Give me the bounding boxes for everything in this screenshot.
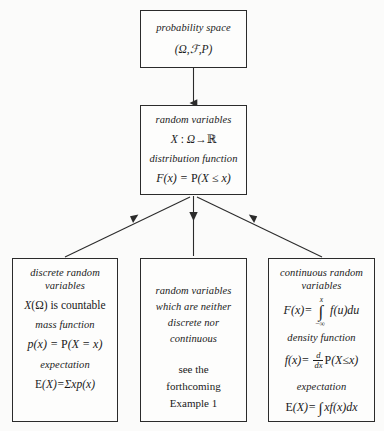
integral-upper-limit: x <box>320 297 323 303</box>
neither-line-4: continuous <box>141 333 246 345</box>
expectation-integral-icon: ∫ <box>318 400 322 416</box>
df-rhs: (X ≤ x) <box>198 171 231 185</box>
node-discrete-random-variables: discrete random variables X(Ω) is counta… <box>12 258 118 422</box>
cont-P-rhs: (X≤x) <box>331 353 358 367</box>
continuous-expectation-label: expectation <box>269 381 374 393</box>
cont-F: F <box>284 303 291 317</box>
discrete-heading-line-2: variables <box>13 280 117 292</box>
df-mid: (x) = <box>164 171 191 185</box>
discrete-heading-line-1: discrete random <box>13 267 117 279</box>
mass-P: P <box>61 337 68 351</box>
mass-mid: (x) = <box>34 337 61 351</box>
diagram-canvas: probability space (Ω,ℱ,P) random variabl… <box>0 0 384 431</box>
discrete-exp-rest: (X)=Σxp(x) <box>42 378 95 390</box>
probability-space-title: probability space <box>141 22 246 34</box>
connector-continuous-to-random-variables <box>197 197 322 257</box>
discrete-expectation-label: expectation <box>13 359 117 371</box>
cont-exp-E: E <box>285 400 292 414</box>
node-random-variables: random variables X : Ω→ℝ distribution fu… <box>140 105 247 195</box>
derivative-denominator: dx <box>313 361 323 370</box>
connector-discrete-to-random-variables <box>65 197 190 257</box>
neither-line-1: random variables <box>141 285 246 297</box>
node-neither-discrete-nor-continuous: random variables which are neither discr… <box>140 258 247 422</box>
integral-lower-limit: −∞ <box>315 321 325 327</box>
continuous-cdf-formula: F(x)= ∫x−∞f(u)du <box>269 304 374 319</box>
neither-line-3: discrete nor <box>141 317 246 329</box>
df-P: P <box>191 171 198 185</box>
mass-function-label: mass function <box>13 319 117 331</box>
discrete-exp-E: E <box>35 378 42 390</box>
density-function-formula: f(x)= d dx P(X≤x) <box>269 351 374 370</box>
discrete-countable-rest: (Ω) is countable <box>31 299 105 311</box>
cont-exp-mid: (X)= <box>293 400 316 414</box>
neither-see-the: see the <box>141 363 246 376</box>
rv-symbol-X: X <box>171 133 178 145</box>
node-probability-space: probability space (Ω,ℱ,P) <box>140 10 247 68</box>
continuous-heading-line-2: variables <box>269 280 374 292</box>
discrete-expectation-formula: E(X)=Σxp(x) <box>13 378 117 391</box>
distribution-function-label: distribution function <box>141 153 246 165</box>
df-F: F <box>156 171 163 185</box>
neither-example-reference: Example 1 <box>141 397 246 410</box>
rv-colon: : <box>178 133 187 145</box>
random-variables-title: random variables <box>141 114 246 126</box>
rv-reals: ℝ <box>207 133 217 145</box>
rv-arrow-icon: → <box>195 133 207 145</box>
neither-forthcoming: forthcoming <box>141 380 246 393</box>
density-function-label: density function <box>269 332 374 344</box>
rv-omega: Ω <box>187 133 195 145</box>
probability-space-triple: (Ω,ℱ,P) <box>141 43 246 56</box>
random-variable-mapping: X : Ω→ℝ <box>141 133 246 146</box>
cont-int-body: f(u)du <box>330 303 359 317</box>
node-continuous-random-variables: continuous random variables F(x)= ∫x−∞f(… <box>268 258 375 422</box>
continuous-expectation-formula: E(X)=∫xf(x)dx <box>269 400 374 417</box>
distribution-function-formula: F(x) = P(X ≤ x) <box>141 172 246 186</box>
discrete-countable-statement: X(Ω) is countable <box>13 299 117 312</box>
integral-icon: ∫x−∞ <box>318 305 323 319</box>
cont-F-mid: (x)= <box>291 303 315 317</box>
cont-f-mid: (x)= <box>288 353 312 367</box>
cont-exp-rest: xf(x)dx <box>324 400 357 414</box>
mass-rhs: (X = x) <box>68 337 103 351</box>
neither-line-2: which are neither <box>141 301 246 313</box>
derivative-fraction: d dx <box>313 351 323 370</box>
mass-function-formula: p(x) = P(X = x) <box>13 338 117 352</box>
continuous-heading-line-1: continuous random <box>269 267 374 279</box>
connector-random-variables-to-neither <box>189 196 197 256</box>
